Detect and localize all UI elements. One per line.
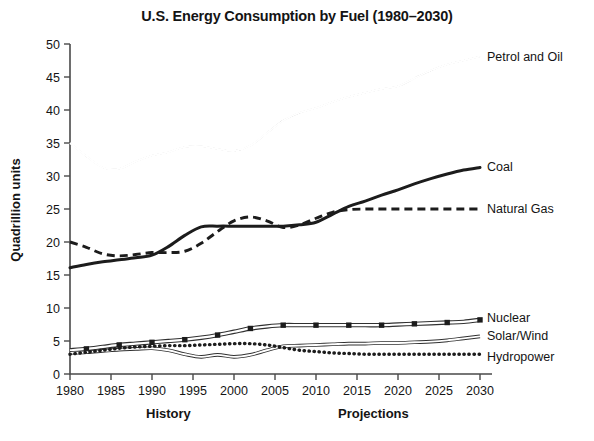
series-label-hydropower: Hydropower bbox=[487, 350, 554, 364]
series-label-petrol-and-oil: Petrol and Oil bbox=[487, 50, 563, 64]
y-axis-tick-label: 15 bbox=[46, 269, 60, 283]
series-marker-nuclear bbox=[182, 337, 187, 342]
x-axis-tick-label: 2015 bbox=[343, 384, 371, 398]
x-axis-tick-label: 2005 bbox=[261, 384, 289, 398]
x-axis-tick-label: 2010 bbox=[302, 384, 330, 398]
y-axis-tick-label: 40 bbox=[46, 104, 60, 118]
series-line-coal bbox=[70, 167, 480, 267]
series-marker-nuclear bbox=[445, 320, 450, 325]
series-marker-nuclear bbox=[215, 332, 220, 337]
series-marker-nuclear bbox=[477, 317, 482, 322]
y-axis-tick-label: 0 bbox=[53, 368, 60, 382]
x-axis-tick-label: 1985 bbox=[97, 384, 125, 398]
x-axis-tick-label: 1995 bbox=[179, 384, 207, 398]
series-label-nuclear: Nuclear bbox=[487, 311, 530, 325]
series-marker-nuclear bbox=[379, 322, 384, 327]
series-marker-nuclear bbox=[412, 321, 417, 326]
y-axis-tick-label: 20 bbox=[46, 236, 60, 250]
y-axis-tick-label: 25 bbox=[46, 203, 60, 217]
series-label-coal: Coal bbox=[487, 160, 513, 174]
series-marker-nuclear bbox=[281, 322, 286, 327]
y-axis-tick-label: 45 bbox=[46, 71, 60, 85]
series-label-natural-gas: Natural Gas bbox=[487, 202, 554, 216]
x-axis-tick-label: 1990 bbox=[138, 384, 166, 398]
y-axis-tick-label: 30 bbox=[46, 170, 60, 184]
x-axis-tick-label: 1980 bbox=[56, 384, 84, 398]
y-axis-tick-label: 50 bbox=[46, 38, 60, 52]
series-marker-nuclear bbox=[248, 326, 253, 331]
series-line-petrol-and-oil bbox=[70, 57, 480, 170]
y-axis-title: Quadrillion units bbox=[8, 158, 23, 261]
series-line-petrol-and-oil bbox=[70, 57, 480, 170]
x-axis-tick-label: 2020 bbox=[384, 384, 412, 398]
series-marker-nuclear bbox=[313, 322, 318, 327]
y-axis-tick-label: 10 bbox=[46, 302, 60, 316]
series-label-solar-wind: Solar/Wind bbox=[487, 329, 548, 343]
chart-plot-area: 05101520253035404550Quadrillion units198… bbox=[0, 0, 594, 441]
y-axis-tick-label: 35 bbox=[46, 137, 60, 151]
series-line-natural-gas bbox=[70, 209, 480, 256]
series-group bbox=[70, 57, 483, 357]
series-marker-nuclear bbox=[149, 340, 154, 345]
period-label-history: History bbox=[146, 406, 192, 421]
x-axis-tick-label: 2000 bbox=[220, 384, 248, 398]
series-marker-nuclear bbox=[346, 322, 351, 327]
period-label-projections: Projections bbox=[338, 406, 409, 421]
x-axis-tick-label: 2030 bbox=[466, 384, 494, 398]
energy-consumption-chart: U.S. Energy Consumption by Fuel (1980–20… bbox=[0, 0, 594, 441]
y-axis-tick-label: 5 bbox=[53, 335, 60, 349]
x-axis-tick-label: 2025 bbox=[425, 384, 453, 398]
